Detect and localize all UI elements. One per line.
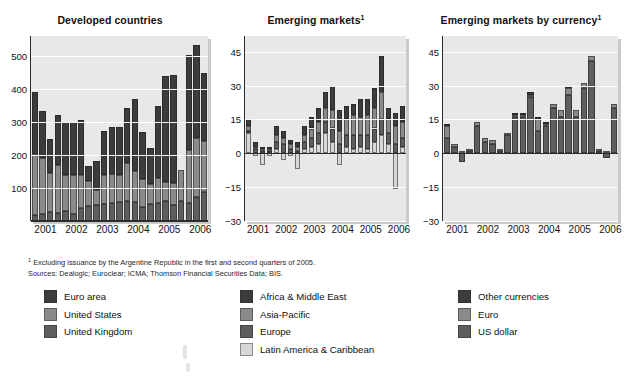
bar-segment	[611, 104, 617, 109]
legend-swatch	[240, 325, 253, 338]
legend-item[interactable]: United Kingdom	[44, 323, 224, 341]
bar-segment	[186, 150, 192, 203]
bar	[351, 36, 357, 221]
bar-segment	[444, 138, 450, 154]
bar-segment	[444, 126, 450, 137]
bar-segment	[155, 106, 161, 178]
x-axis-tick-label: 2006	[388, 224, 410, 235]
bar-segment	[93, 205, 99, 221]
bar-segment	[155, 178, 161, 203]
bar-segment	[281, 131, 287, 138]
bar-segment	[178, 201, 184, 221]
bar-segment	[309, 138, 315, 147]
bar-segment	[365, 135, 371, 149]
legend-label: United States	[64, 309, 122, 320]
bar-segment	[527, 92, 533, 94]
bar	[512, 36, 518, 221]
bar	[611, 36, 617, 221]
bar-segment	[193, 45, 199, 138]
bar-segment	[323, 133, 329, 153]
bar-segment	[466, 149, 472, 151]
legend-item[interactable]: Euro	[458, 306, 618, 324]
bar-segment	[527, 97, 533, 153]
x-axis-tick-label: 2002	[65, 224, 87, 235]
scan-artifact	[183, 345, 187, 359]
bar	[309, 36, 315, 221]
y-axis-labels: 4530150−15−30	[218, 36, 244, 221]
bar-segment	[565, 95, 571, 154]
bar-segment	[302, 126, 308, 135]
bar-segment	[47, 173, 53, 212]
gridline	[31, 188, 208, 189]
bar	[55, 36, 61, 221]
y-axis-tick-label: 30	[230, 80, 241, 91]
y-axis-tick-label: 45	[428, 46, 439, 57]
x-axis-tick-label: 2006	[599, 224, 621, 235]
y-axis-tick-label: 200	[11, 149, 27, 160]
y-axis-tick-label: 300	[11, 116, 27, 127]
bar-segment	[274, 126, 280, 135]
bar-segment	[267, 147, 273, 149]
bar-segment	[527, 95, 533, 97]
plot-area	[442, 36, 618, 221]
bar-segment	[482, 142, 488, 153]
bar-segment	[246, 131, 252, 133]
bar-segment	[386, 108, 392, 119]
legend-item[interactable]: Latin America & Caribbean	[240, 341, 440, 359]
plot-area	[30, 36, 208, 221]
bar-segment	[295, 153, 301, 169]
bar	[139, 36, 145, 221]
plot-area	[244, 36, 406, 221]
bar-segment	[351, 135, 357, 149]
bar-segment	[365, 99, 371, 115]
legend-item[interactable]: Africa & Middle East	[240, 288, 440, 306]
bar-segment	[543, 122, 549, 124]
y-axis-tick-label: 0	[236, 148, 241, 159]
bar	[155, 36, 161, 221]
bar	[295, 36, 301, 221]
bar-segment	[201, 73, 207, 141]
bar	[109, 36, 115, 221]
bar	[78, 36, 84, 221]
legend-item[interactable]: Europe	[240, 323, 440, 341]
bar	[124, 36, 130, 221]
legend-item[interactable]: Euro area	[44, 288, 224, 306]
bar	[116, 36, 122, 221]
bar-segment	[139, 179, 145, 207]
bar	[386, 36, 392, 221]
legend-label: Euro	[478, 309, 498, 320]
bar-segment	[489, 140, 495, 145]
bar	[62, 36, 68, 221]
bar-segment	[512, 117, 518, 153]
bar	[558, 36, 564, 221]
x-axis-tick-label: 2006	[189, 224, 211, 235]
legend-item[interactable]: United States	[44, 306, 224, 324]
legend-label: Europe	[260, 326, 291, 337]
bars-container	[31, 36, 208, 221]
bar-segment	[85, 181, 91, 206]
bar-segment	[260, 147, 266, 149]
bar	[162, 36, 168, 221]
legend-column-developed: Euro areaUnited StatesUnited Kingdom	[44, 288, 224, 364]
x-axis-tick-label: 2001	[34, 224, 56, 235]
bar-segment	[372, 142, 378, 153]
bar	[323, 36, 329, 221]
bar	[246, 36, 252, 221]
bar	[344, 36, 350, 221]
legend-label: Africa & Middle East	[260, 291, 346, 302]
legend-item[interactable]: US dollar	[458, 323, 618, 341]
bar-segment	[512, 115, 518, 117]
bar-segment	[344, 119, 350, 135]
bar	[365, 36, 371, 221]
legend-item[interactable]: Other currencies	[458, 288, 618, 306]
gridline	[31, 89, 208, 90]
legend-label: US dollar	[478, 326, 517, 337]
bar-segment	[588, 56, 594, 61]
bar-segment	[193, 197, 199, 221]
legend-item[interactable]: Asia-Pacific	[240, 306, 440, 324]
gridline	[245, 187, 406, 188]
bar-segment	[101, 131, 107, 175]
gridline	[443, 221, 618, 222]
legend-swatch	[240, 343, 253, 356]
bar	[101, 36, 107, 221]
